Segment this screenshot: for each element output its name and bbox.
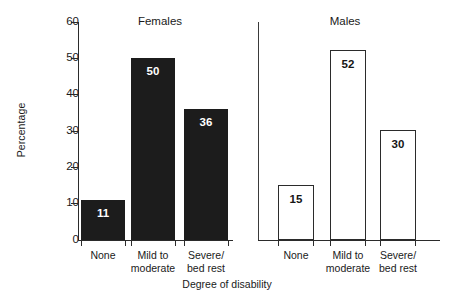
cat-tick-males-2 [313,240,314,246]
cat-label-females-mild-to-moderate: Mild to moderate [123,249,183,274]
bar-females-mild-to-moderate: 50 [131,58,175,240]
bar-value-females-none: 11 [81,207,125,219]
x-axis-line-females [78,240,233,241]
bar-females-none: 11 [81,200,125,240]
y-tick-group-0: 0 [40,234,79,246]
bar-males-severe-bed-rest: 30 [380,130,416,240]
cat-tick-males-1 [278,240,279,246]
bar-value-females-severe-bed-rest: 36 [184,116,228,128]
bar-value-males-mild-to-moderate: 52 [331,58,365,70]
bar-males-none: 15 [278,185,314,240]
y-axis-title: Percentage [4,0,38,260]
cat-tick-females-2 [125,240,126,246]
cat-label-males-none: None [266,249,326,262]
cat-tick-males-5 [380,240,381,246]
cat-tick-females-3 [131,240,132,246]
x-axis-title: Degree of disability [0,278,454,290]
bar-females-severe-bed-rest: 36 [184,109,228,240]
cat-tick-males-3 [330,240,331,246]
panel-title-males: Males [295,15,395,27]
cat-label-females-severe-bed-rest: Severe/ bed rest [176,249,236,274]
y-tick-mark-20 [71,167,79,168]
x-axis-line-males [258,240,440,241]
panel-divider [258,22,259,241]
cat-tick-males-4 [365,240,366,246]
y-tick-label-0: 0 [53,234,79,246]
cat-tick-males-6 [415,240,416,246]
panel-title-females: Females [110,15,210,27]
y-tick-mark-30 [71,131,79,132]
y-axis-title-label: Percentage [15,103,27,158]
cat-tick-females-4 [175,240,176,246]
bar-value-males-none: 15 [279,193,313,205]
bar-chart-figure: Percentage 60 50 40 30 20 10 0 Females 1… [0,0,454,297]
cat-tick-females-6 [228,240,229,246]
bar-value-females-mild-to-moderate: 50 [131,65,175,77]
cat-label-males-severe-bed-rest: Severe/ bed rest [368,249,428,274]
y-tick-mark-10 [71,203,79,204]
y-tick-mark-60 [71,22,79,23]
bar-males-mild-to-moderate: 52 [330,50,366,240]
bar-value-males-severe-bed-rest: 30 [381,138,415,150]
y-tick-mark-50 [71,58,79,59]
cat-tick-females-5 [184,240,185,246]
y-tick-mark-40 [71,94,79,95]
cat-tick-females-1 [81,240,82,246]
